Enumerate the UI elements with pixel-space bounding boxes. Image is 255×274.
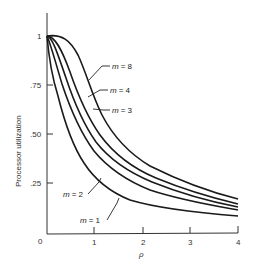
curve-m3	[47, 36, 238, 207]
chart-canvas: 1 .75 .50 .25 0 1 2 3 4 ρ Processor util…	[0, 0, 255, 274]
x-tick-label-2: 2	[141, 238, 146, 247]
x-tick-label-3: 3	[188, 238, 193, 247]
origin-label: 0	[38, 237, 43, 246]
y-axis-label: Processor utilization	[14, 115, 23, 187]
svg-text:m= 4: m= 4	[110, 86, 131, 95]
svg-text:m= 8: m= 8	[112, 62, 133, 71]
curve-label-value: = 2	[72, 190, 84, 199]
m-symbol: m	[112, 62, 119, 71]
curve-label-value: = 8	[121, 62, 133, 71]
leader-m3	[93, 109, 110, 110]
leader-m1	[107, 198, 119, 220]
m-symbol: m	[112, 106, 119, 115]
curves	[47, 36, 238, 216]
x-axis-label: ρ	[138, 250, 144, 259]
svg-text:m= 2: m= 2	[63, 190, 84, 199]
curve-label-m4: m= 4	[110, 86, 131, 95]
curve-m1	[47, 36, 238, 216]
curve-label-m2: m= 2	[63, 190, 84, 199]
x-tick-label-1: 1	[92, 238, 97, 247]
svg-text:m= 3: m= 3	[112, 106, 133, 115]
y-tick-label-50: .50	[30, 130, 42, 139]
curve-label-m8: m= 8	[112, 62, 133, 71]
y-tick-label-1: 1	[37, 32, 42, 41]
curve-label-value: = 1	[89, 216, 101, 225]
svg-text:m= 1: m= 1	[80, 216, 101, 225]
y-tick-label-25: .25	[30, 179, 42, 188]
curve-label-value: = 3	[121, 106, 133, 115]
curve-label-m3: m= 3	[112, 106, 133, 115]
m-symbol: m	[110, 86, 117, 95]
curve-m2	[47, 36, 238, 210]
x-axis	[47, 233, 238, 234]
m-symbol: m	[80, 216, 87, 225]
curve-label-m1: m= 1	[80, 216, 101, 225]
curve-label-value: = 4	[119, 86, 131, 95]
leader-m4	[88, 90, 108, 97]
x-tick-label-4: 4	[236, 238, 241, 247]
leader-m8	[89, 66, 110, 80]
y-tick-label-75: .75	[30, 81, 42, 90]
m-symbol: m	[63, 190, 70, 199]
